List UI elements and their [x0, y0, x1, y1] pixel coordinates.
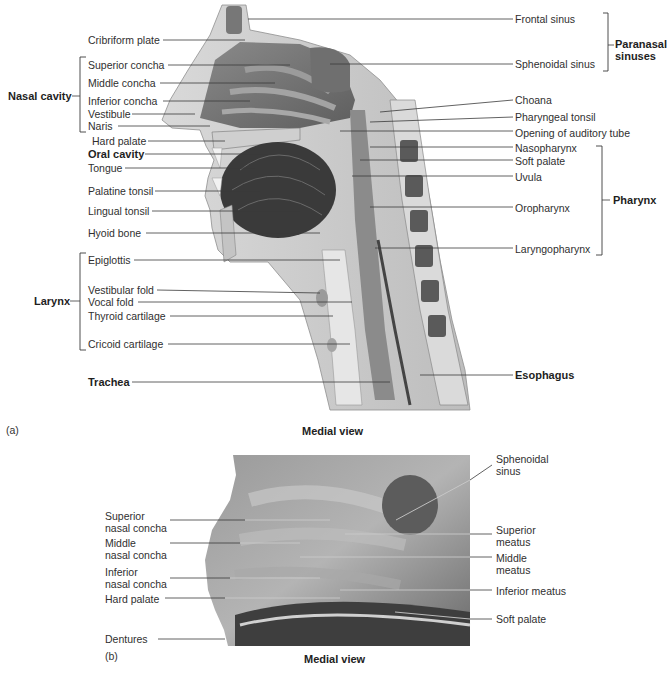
- label-esophagus: Esophagus: [515, 369, 574, 381]
- label-uvula: Uvula: [515, 171, 542, 183]
- label-b-dentures: Dentures: [105, 633, 148, 645]
- label-hyoid-bone: Hyoid bone: [88, 227, 141, 239]
- label-line: nasal concha: [105, 522, 167, 534]
- group-larynx: Larynx: [34, 295, 70, 307]
- label-sphenoidal-sinus: Sphenoidal sinus: [515, 58, 595, 70]
- panel-b-letter: (b): [105, 650, 118, 662]
- label-line: Superior: [496, 524, 536, 536]
- group-pharynx: Pharynx: [613, 194, 656, 206]
- label-epiglottis: Epiglottis: [88, 254, 131, 266]
- label-b-inferior-meatus: Inferior meatus: [496, 585, 566, 597]
- label-line: nasal concha: [105, 578, 167, 590]
- label-cricoid-cartilage: Cricoid cartilage: [88, 338, 163, 350]
- label-trachea: Trachea: [88, 376, 130, 388]
- label-tongue: Tongue: [88, 162, 122, 174]
- label-b-hard-palate: Hard palate: [105, 593, 159, 605]
- label-vestibule: Vestibule: [88, 108, 131, 120]
- label-choana: Choana: [515, 94, 552, 106]
- group-paranasal-sinuses-line2: sinuses: [615, 50, 656, 62]
- label-superior-concha: Superior concha: [88, 59, 164, 71]
- label-naris: Naris: [88, 120, 113, 132]
- label-line: Middle: [496, 552, 530, 564]
- panel-a-caption: Medial view: [302, 425, 363, 437]
- label-laryngopharynx: Laryngopharynx: [515, 243, 590, 255]
- label-thyroid-cartilage: Thyroid cartilage: [88, 310, 166, 322]
- label-vocal-fold: Vocal fold: [88, 296, 134, 308]
- label-palatine-tonsil: Palatine tonsil: [88, 185, 153, 197]
- label-line: meatus: [496, 536, 536, 548]
- label-inferior-concha: Inferior concha: [88, 95, 157, 107]
- label-lingual-tonsil: Lingual tonsil: [88, 205, 149, 217]
- head-sagittal-section: [162, 5, 470, 410]
- label-opening-of-auditory-tube: Opening of auditory tube: [515, 127, 630, 139]
- label-line: Inferior: [105, 566, 167, 578]
- group-nasal-cavity: Nasal cavity: [8, 90, 72, 102]
- label-b-middle-meatus: Middle meatus: [496, 552, 530, 576]
- label-line: nasal concha: [105, 549, 167, 561]
- label-pharyngeal-tonsil: Pharyngeal tonsil: [515, 111, 596, 123]
- label-b-superior-nasal-concha: Superior nasal concha: [105, 510, 167, 534]
- label-line: meatus: [496, 564, 530, 576]
- label-line: Superior: [105, 510, 167, 522]
- label-b-middle-nasal-concha: Middle nasal concha: [105, 537, 167, 561]
- label-line: Inferior meatus: [496, 585, 566, 597]
- label-line: Sphenoidal: [496, 453, 549, 465]
- cadaver-photo: [205, 455, 470, 646]
- label-soft-palate: Soft palate: [515, 155, 565, 167]
- label-line: sinus: [496, 465, 549, 477]
- label-hard-palate: Hard palate: [92, 135, 146, 147]
- label-cribriform-plate: Cribriform plate: [88, 34, 160, 46]
- label-line: Dentures: [105, 633, 148, 645]
- label-oral-cavity: Oral cavity: [88, 148, 144, 160]
- label-nasopharynx: Nasopharynx: [515, 142, 577, 154]
- group-paranasal-sinuses-line1: Paranasal: [615, 38, 667, 50]
- label-b-superior-meatus: Superior meatus: [496, 524, 536, 548]
- panel-a-letter: (a): [6, 424, 19, 436]
- label-vestibular-fold: Vestibular fold: [88, 284, 154, 296]
- label-line: Hard palate: [105, 593, 159, 605]
- label-frontal-sinus: Frontal sinus: [515, 13, 575, 25]
- label-line: Soft palate: [496, 613, 546, 625]
- label-oropharynx: Oropharynx: [515, 202, 570, 214]
- label-middle-concha: Middle concha: [88, 77, 156, 89]
- label-line: Middle: [105, 537, 167, 549]
- label-b-soft-palate: Soft palate: [496, 613, 546, 625]
- label-b-inferior-nasal-concha: Inferior nasal concha: [105, 566, 167, 590]
- panel-b-caption: Medial view: [304, 653, 365, 665]
- label-b-sphenoidal-sinus: Sphenoidal sinus: [496, 453, 549, 477]
